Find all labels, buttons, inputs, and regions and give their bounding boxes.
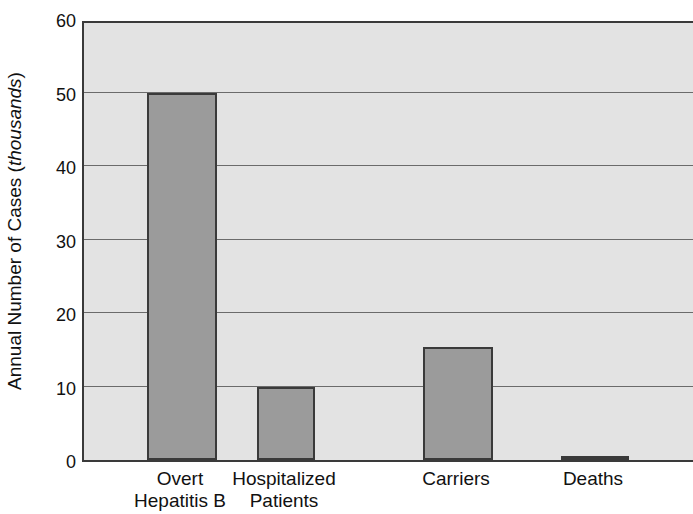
y-tick-label-20: 20 [26,306,76,324]
x-axis-tick-labels: OvertHepatitis BHospitalizedPatientsCarr… [82,468,693,514]
plot-area [82,21,693,462]
y-axis-title-unit: thousands [4,78,26,166]
bar [561,456,629,460]
y-axis-title: Annual Number of Cases (thousands) [2,0,28,462]
y-tick-label-60: 60 [26,12,76,30]
x-tick-label: HospitalizedPatients [189,468,379,512]
y-tick-label-40: 40 [26,159,76,177]
y-axis-title-suffix: ) [4,72,26,78]
y-tick-label-10: 10 [26,380,76,398]
bar [423,347,493,460]
y-tick-label-30: 30 [26,233,76,251]
x-tick-label-line: Deaths [498,468,688,490]
x-tick-label-line: Patients [189,490,379,512]
bar-chart-figure: Annual Number of Cases (thousands) 01020… [0,0,693,514]
y-axis-title-prefix: Annual Number of Cases ( [4,166,26,390]
x-tick-label-line: Hospitalized [189,468,379,490]
y-axis-tick-labels: 0102030405060 [26,0,76,514]
bar [147,93,217,461]
x-tick-label: Deaths [498,468,688,490]
y-tick-label-50: 50 [26,86,76,104]
y-tick-label-0: 0 [26,453,76,471]
bar [257,387,315,461]
